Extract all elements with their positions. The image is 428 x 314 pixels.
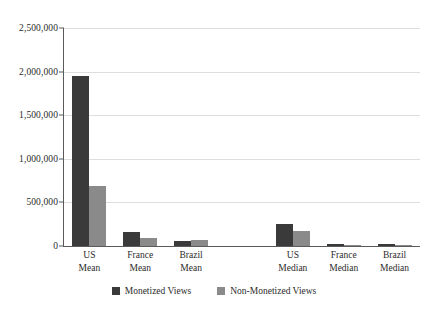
y-axis-tick-mark [59,158,64,159]
bar[interactable] [293,231,310,246]
y-axis-tick-labels: 0500,0001,000,0001,500,0002,000,0002,500… [0,0,58,260]
bar[interactable] [174,241,191,246]
bar-group [318,28,369,246]
legend-swatch-icon [112,287,120,295]
y-axis-tick-label: 1,500,000 [19,110,58,120]
bar-pair [267,28,318,246]
category-label-line-1: France [331,250,357,260]
bar-group [166,28,217,246]
bar-chart: 0500,0001,000,0001,500,0002,000,0002,500… [0,0,428,314]
plot-area [64,28,420,246]
y-axis-tick-label: 500,000 [26,197,58,207]
category-label-line-1: US [83,250,95,260]
category-label-line-2: Mean [115,262,166,275]
bar-pair [166,28,217,246]
legend-item[interactable]: Monetized Views [112,286,192,296]
y-axis-tick-label: 0 [53,241,58,251]
legend-item[interactable]: Non-Monetized Views [217,286,316,296]
y-axis-tick-mark [59,115,64,116]
bar[interactable] [395,245,412,246]
legend-label: Non-Monetized Views [230,286,316,296]
x-axis-line [63,246,420,247]
x-axis-category-label: FranceMean [115,249,166,274]
bar-group [64,28,115,246]
bar-pair [64,28,115,246]
bar-group [115,28,166,246]
x-axis-category-label: BrazilMedian [369,249,420,274]
bar-group [369,28,420,246]
bar-pair [369,28,420,246]
bar[interactable] [191,240,208,246]
x-axis-category-labels: USMeanFranceMeanBrazilMeanUSMedianFrance… [64,249,420,283]
bar[interactable] [123,232,140,246]
category-label-line-1: France [127,250,153,260]
category-label-line-1: Brazil [180,250,203,260]
chart-legend: Monetized ViewsNon-Monetized Views [0,286,428,296]
bar-groups [64,28,420,246]
bar[interactable] [344,245,361,246]
bar[interactable] [276,224,293,246]
y-axis-tick-label: 1,000,000 [19,154,58,164]
bar-pair [115,28,166,246]
plot-wrapper: 0500,0001,000,0001,500,0002,000,0002,500… [0,0,428,260]
x-axis-category-label: BrazilMean [166,249,217,274]
legend-label: Monetized Views [125,286,192,296]
bar[interactable] [72,76,89,246]
bar[interactable] [327,244,344,246]
x-axis-category-label: FranceMedian [318,249,369,274]
y-axis-tick-label: 2,500,000 [19,23,58,33]
category-label-line-2: Mean [64,262,115,275]
legend-swatch-icon [217,287,225,295]
bar[interactable] [378,244,395,246]
category-label-line-2: Median [318,262,369,275]
bar[interactable] [89,186,106,246]
y-axis-tick-mark [59,71,64,72]
category-label-line-1: US [287,250,299,260]
bar-pair [318,28,369,246]
bar[interactable] [140,238,157,246]
y-axis-tick-mark [59,28,64,29]
y-axis-tick-label: 2,000,000 [19,67,58,77]
category-label-line-2: Mean [166,262,217,275]
category-label-line-2: Median [267,262,318,275]
category-label-line-2: Median [369,262,420,275]
x-axis-category-label: USMean [64,249,115,274]
y-axis-tick-mark [59,246,64,247]
y-axis-tick-mark [59,202,64,203]
category-label-line-1: Brazil [383,250,406,260]
x-axis-category-label: USMedian [267,249,318,274]
bar-group [267,28,318,246]
